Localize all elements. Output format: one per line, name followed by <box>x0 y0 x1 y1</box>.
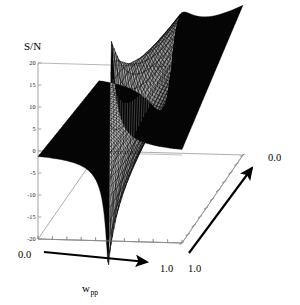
surface-plot-figure: 20151050-5-10-15-20 S/N 0.0 1.0 1.0 0.0 … <box>0 0 300 305</box>
y-axis-near-label: 1.0 <box>188 263 201 274</box>
x-axis-start-label: 0.0 <box>18 249 31 260</box>
z-tick-label: 0 <box>32 147 35 154</box>
z-axis-label: S/N <box>24 40 41 52</box>
z-axis-tick-labels: 20151050-5-10-15-20 <box>27 59 35 242</box>
z-tick-label: -15 <box>27 213 35 220</box>
z-tick-label: 5 <box>32 125 35 132</box>
base-plane-front-edges <box>38 154 245 245</box>
z-tick-label: 20 <box>29 59 35 66</box>
x-axis-end-label: 1.0 <box>160 263 173 274</box>
x-axis-title: wpp <box>82 282 98 297</box>
z-tick-label: 15 <box>29 81 35 88</box>
axis-direction-arrows <box>44 168 252 262</box>
y-axis-far-label: 0.0 <box>268 152 281 163</box>
plot-canvas: 20151050-5-10-15-20 S/N 0.0 1.0 1.0 0.0 … <box>0 0 300 305</box>
z-tick-label: -10 <box>27 191 35 198</box>
z-tick-label: 10 <box>29 103 35 110</box>
surface-mesh <box>38 5 243 264</box>
z-tick-label: -20 <box>27 235 35 242</box>
z-tick-label: -5 <box>30 169 35 176</box>
